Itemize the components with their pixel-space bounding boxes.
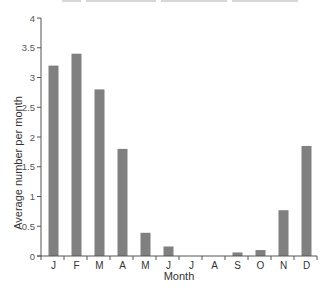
- bar-chart: 00.511.522.533.54JFMAMJJASOND: [0, 0, 330, 294]
- bar-8: [233, 252, 243, 256]
- bar-5: [164, 246, 174, 256]
- bar-10: [279, 210, 289, 256]
- y-tick-label: 0: [30, 251, 35, 262]
- y-tick-label: 4: [30, 13, 35, 24]
- bar-0: [49, 66, 59, 256]
- bar-3: [118, 149, 128, 256]
- y-tick-label: 3: [30, 72, 35, 83]
- y-tick-label: 1: [30, 191, 35, 202]
- bar-9: [256, 250, 266, 256]
- bar-1: [72, 54, 82, 256]
- x-axis-title: Month: [41, 270, 317, 282]
- y-tick-label: 2: [30, 132, 35, 143]
- y-tick-label: 3.5: [22, 42, 35, 53]
- y-axis-title: Average number per month: [12, 83, 24, 243]
- bar-2: [95, 89, 105, 256]
- bar-4: [141, 233, 151, 256]
- bar-11: [302, 146, 312, 256]
